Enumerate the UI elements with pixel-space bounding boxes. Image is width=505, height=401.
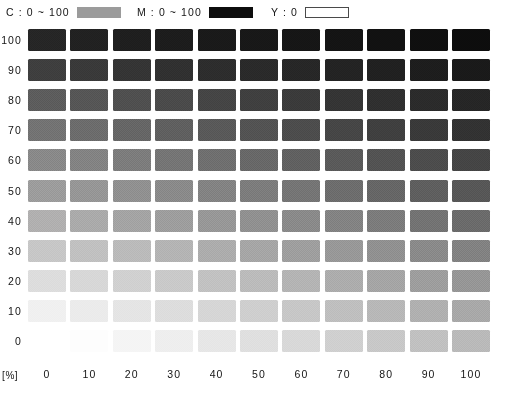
color-patch [325, 59, 363, 81]
x-axis-tick-label: 0 [28, 368, 66, 380]
color-patch [367, 149, 405, 171]
color-patch [240, 29, 278, 51]
x-axis-tick-label: 30 [155, 368, 193, 380]
color-patch [325, 240, 363, 262]
y-axis-tick-label: 100 [1, 29, 22, 51]
color-patch [410, 300, 448, 322]
color-patch [70, 149, 108, 171]
color-patch [155, 59, 193, 81]
color-patch [240, 270, 278, 292]
color-patch [113, 119, 151, 141]
patch-row [28, 300, 494, 322]
color-patch [367, 330, 405, 352]
patch-row [28, 180, 494, 202]
color-patch [70, 270, 108, 292]
color-patch [367, 270, 405, 292]
patch-row [28, 89, 494, 111]
color-patch [410, 210, 448, 232]
color-patch [452, 89, 490, 111]
color-patch [410, 29, 448, 51]
color-patch [367, 210, 405, 232]
color-patch [113, 240, 151, 262]
color-patch [367, 29, 405, 51]
patch-grid [28, 29, 494, 360]
color-patch [70, 330, 108, 352]
color-patch [452, 210, 490, 232]
color-patch [70, 89, 108, 111]
color-patch [155, 119, 193, 141]
color-patch [282, 270, 320, 292]
x-axis: 0102030405060708090100 [28, 368, 494, 384]
x-axis-tick-label: 90 [410, 368, 448, 380]
color-patch [240, 330, 278, 352]
color-patch [155, 270, 193, 292]
y-axis-tick-label: 10 [8, 300, 22, 322]
color-patch [282, 180, 320, 202]
y-axis-tick-label: 50 [8, 180, 22, 202]
color-patch [70, 300, 108, 322]
color-patch [28, 270, 66, 292]
y-axis-tick-label: 60 [8, 149, 22, 171]
x-axis-tick-label: 20 [113, 368, 151, 380]
color-patch [367, 180, 405, 202]
color-patch [410, 270, 448, 292]
color-patch [282, 59, 320, 81]
color-patch [70, 29, 108, 51]
y-axis-tick-label: 40 [8, 210, 22, 232]
color-patch [410, 180, 448, 202]
color-patch [240, 300, 278, 322]
cmyk-halftone-chart: C : 0 ~ 100 M : 0 ~ 100 Y : 0 1009080706… [0, 0, 505, 401]
color-patch [28, 119, 66, 141]
color-patch [28, 89, 66, 111]
color-patch [410, 149, 448, 171]
color-patch [452, 29, 490, 51]
color-patch [28, 210, 66, 232]
color-patch [240, 89, 278, 111]
color-patch [28, 180, 66, 202]
y-axis-tick-label: 0 [15, 330, 22, 352]
color-patch [325, 210, 363, 232]
color-patch [367, 89, 405, 111]
x-axis-tick-label: 70 [325, 368, 363, 380]
color-patch [198, 59, 236, 81]
color-patch [325, 270, 363, 292]
legend-item-cyan: C : 0 ~ 100 [6, 3, 121, 21]
patch-row [28, 210, 494, 232]
x-axis-tick-label: 50 [240, 368, 278, 380]
color-patch [325, 149, 363, 171]
color-patch [240, 240, 278, 262]
color-patch [113, 330, 151, 352]
color-patch [113, 149, 151, 171]
legend-item-yellow: Y : 0 [271, 3, 349, 21]
color-patch [282, 210, 320, 232]
color-patch [282, 119, 320, 141]
patch-row [28, 149, 494, 171]
patch-row [28, 270, 494, 292]
color-patch [452, 270, 490, 292]
color-patch [452, 119, 490, 141]
color-patch [325, 119, 363, 141]
color-patch [28, 59, 66, 81]
legend-item-magenta: M : 0 ~ 100 [137, 3, 253, 21]
color-patch [113, 180, 151, 202]
y-axis-tick-label: 30 [8, 240, 22, 262]
y-axis-tick-label: 80 [8, 89, 22, 111]
color-patch [28, 29, 66, 51]
color-patch [198, 180, 236, 202]
color-patch [28, 300, 66, 322]
color-patch [198, 240, 236, 262]
color-patch [325, 29, 363, 51]
legend-swatch-magenta-icon [209, 7, 253, 18]
color-patch [240, 210, 278, 232]
color-patch [155, 29, 193, 51]
legend-label-yellow: Y : 0 [271, 6, 298, 18]
color-patch [410, 89, 448, 111]
color-patch [155, 149, 193, 171]
color-patch [198, 270, 236, 292]
y-axis-tick-label: 20 [8, 270, 22, 292]
color-patch [325, 330, 363, 352]
color-patch [70, 180, 108, 202]
patch-row [28, 59, 494, 81]
color-patch [70, 210, 108, 232]
y-axis: 1009080706050403020100 [0, 29, 26, 360]
